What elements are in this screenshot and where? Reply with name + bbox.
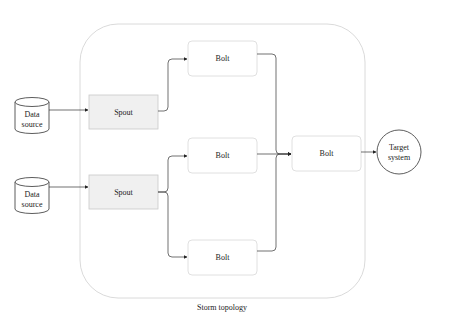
edge-spout1-bolt-top xyxy=(158,59,187,111)
target-line1: Target xyxy=(389,143,410,152)
edge-spout2-bolt-bottom xyxy=(158,192,187,257)
spout-2-label: Spout xyxy=(114,188,133,197)
spout-1: Spout xyxy=(89,95,158,129)
bolt-top: Bolt xyxy=(188,41,257,76)
data-source-2: Data source xyxy=(15,178,49,214)
data-source-1: Data source xyxy=(15,98,49,134)
bolt-bottom-label: Bolt xyxy=(216,253,231,262)
edge-bolt-top-aggregate xyxy=(257,54,291,154)
spout-1-label: Spout xyxy=(114,108,133,117)
bolt-aggregate-label: Bolt xyxy=(320,149,335,158)
storm-topology-diagram: Data source Data source Spout Spout Bolt… xyxy=(0,0,455,323)
data-source-2-line1: Data xyxy=(24,190,40,199)
target-system: Target system xyxy=(377,130,421,174)
bolt-middle-label: Bolt xyxy=(216,151,231,160)
edge-bolt-bottom-aggregate xyxy=(257,154,291,251)
container-label: Storm topology xyxy=(197,303,247,312)
database-icon xyxy=(15,98,49,107)
bolt-bottom: Bolt xyxy=(188,240,257,275)
data-source-1-line1: Data xyxy=(24,110,40,119)
edge-spout2-bolt-middle xyxy=(158,156,187,192)
bolt-aggregate: Bolt xyxy=(292,136,361,171)
data-source-1-line2: source xyxy=(22,120,43,129)
target-line2: system xyxy=(388,153,411,162)
data-source-2-line2: source xyxy=(22,200,43,209)
bolt-top-label: Bolt xyxy=(216,54,231,63)
spout-2: Spout xyxy=(89,175,158,209)
bolt-middle: Bolt xyxy=(188,138,257,173)
database-icon xyxy=(15,178,49,187)
